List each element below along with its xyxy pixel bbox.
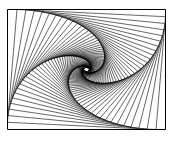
rectangle-outline [42,35,132,103]
nested-rectangles [8,10,166,130]
rectangle-outline [13,13,161,125]
rectangle-outline [32,28,141,111]
rectangle-outline [23,21,150,118]
rectangle-outline [29,26,144,114]
whirl-rectangles-drawing [0,0,171,142]
rectangle-outline [38,33,134,106]
rectangle-outline [15,15,159,124]
rectangle-outline [17,17,156,122]
